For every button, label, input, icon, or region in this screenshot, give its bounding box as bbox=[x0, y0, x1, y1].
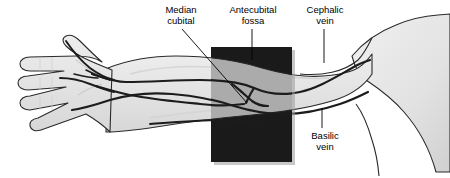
label-cephalic-vein: Cephalic vein bbox=[296, 4, 354, 26]
label-basilic-vein: Basilic vein bbox=[296, 130, 354, 152]
axilla-edge bbox=[356, 104, 379, 176]
arm-anatomy-illustration bbox=[0, 0, 450, 178]
hand-shape bbox=[18, 35, 112, 132]
antecubital-fossa-figure: Median cubital Antecubital fossa Cephali… bbox=[0, 0, 450, 178]
label-antecubital-fossa: Antecubital fossa bbox=[216, 4, 290, 26]
label-median-cubital: Median cubital bbox=[150, 4, 212, 26]
